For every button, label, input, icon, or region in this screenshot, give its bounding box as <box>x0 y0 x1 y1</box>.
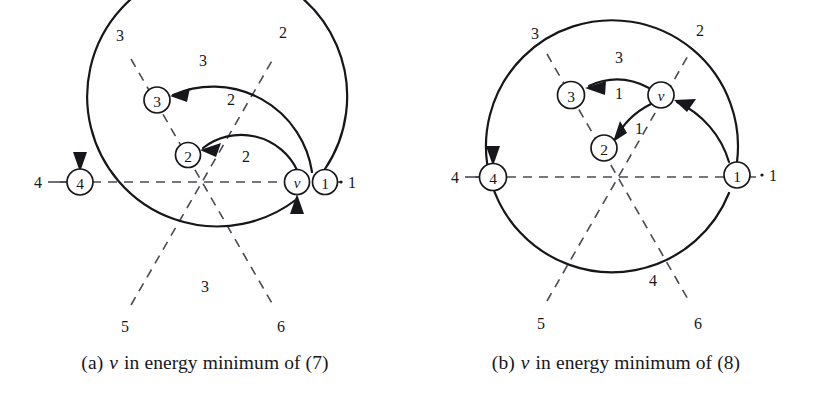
panel-a-diagram: 1 2 3 4 5 6 <box>0 0 410 352</box>
arrowhead-into-node-2 <box>200 143 221 157</box>
caption-symbol: v <box>108 352 119 373</box>
arc-label-outer-top: 3 <box>615 49 623 66</box>
spoke-label-1: 1 <box>348 174 356 191</box>
spoke-label-4: 4 <box>451 169 459 186</box>
spoke-label-2: 2 <box>696 22 704 39</box>
caption-prefix: (b) <box>492 352 515 373</box>
node-3[interactable]: 3 <box>144 87 170 113</box>
spoke-1-leader-dot <box>339 180 342 183</box>
arc-label-group: 3 1 1 4 <box>615 49 657 289</box>
caption-symbol: v <box>520 352 531 373</box>
arc-label-v-to-3: 1 <box>615 85 623 102</box>
spoke-label-2: 2 <box>279 24 287 41</box>
node-2[interactable]: 2 <box>591 135 617 161</box>
node-1[interactable]: 1 <box>313 170 338 195</box>
node-3-label: 3 <box>153 93 161 110</box>
arc-label-bottom: 4 <box>649 272 657 289</box>
spoke-label-1: 1 <box>769 167 777 184</box>
arc-node-1-to-v <box>677 102 729 162</box>
spoke-label-4: 4 <box>34 174 42 191</box>
figure-panel-b: 1 2 3 4 5 6 <box>411 0 821 404</box>
figure-root: 1 2 3 4 5 6 <box>0 0 821 404</box>
node-3-label: 3 <box>567 88 575 105</box>
spoke-1-leader-dot <box>760 173 763 176</box>
spoke-label-3: 3 <box>116 27 124 44</box>
node-4[interactable]: 4 <box>480 164 507 191</box>
panel-b-diagram: 1 2 3 4 5 6 <box>411 0 821 352</box>
node-v-label: v <box>294 175 301 191</box>
caption-text: in energy minimum of (8) <box>536 352 741 373</box>
arc-label-inner: 2 <box>242 148 250 165</box>
node-group: 4 3 2 v 1 <box>67 87 338 195</box>
caption-prefix: (a) <box>81 352 103 373</box>
panel-b-caption: (b) v in energy minimum of (8) <box>411 352 821 374</box>
arc-label-mid-top: 2 <box>227 91 235 108</box>
spoke-label-6: 6 <box>277 318 285 335</box>
caption-text: in energy minimum of (7) <box>124 352 329 373</box>
node-2-label: 2 <box>184 148 192 165</box>
panel-a-caption: (a) v in energy minimum of (7) <box>0 352 410 374</box>
node-2-label: 2 <box>600 141 608 158</box>
arc-label-outer-top: 3 <box>199 52 207 69</box>
node-3[interactable]: 3 <box>558 82 585 109</box>
spoke-label-3: 3 <box>531 25 539 42</box>
node-4[interactable]: 4 <box>67 169 93 195</box>
arc-outer-ring <box>87 0 347 226</box>
node-4-label: 4 <box>489 170 497 187</box>
spoke-label-5: 5 <box>121 318 129 335</box>
node-v[interactable]: v <box>285 170 310 195</box>
node-1[interactable]: 1 <box>724 162 750 188</box>
node-v-label: v <box>658 88 665 104</box>
arc-group <box>73 0 347 226</box>
node-2[interactable]: 2 <box>176 143 201 168</box>
arc-label-v-to-2: 1 <box>635 120 643 137</box>
arrowhead-into-node-3 <box>170 88 190 102</box>
figure-panel-a: 1 2 3 4 5 6 <box>0 0 410 404</box>
spoke-label-6: 6 <box>694 315 702 332</box>
node-v[interactable]: v <box>648 82 674 108</box>
arrowhead-into-node-v-outer <box>290 194 304 214</box>
node-1-label: 1 <box>321 175 329 192</box>
node-1-label: 1 <box>733 168 741 185</box>
node-4-label: 4 <box>76 175 84 192</box>
arc-label-bottom: 3 <box>201 278 209 295</box>
spoke-label-5: 5 <box>537 315 545 332</box>
